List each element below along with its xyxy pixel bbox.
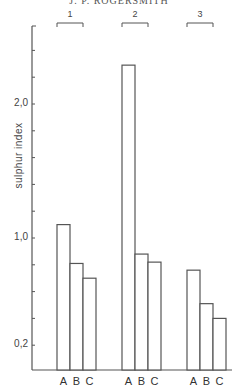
y-tick-label: 0,2 — [2, 338, 28, 349]
bar-1-A — [57, 225, 70, 370]
category-label: B — [135, 375, 148, 387]
bar-2-A — [122, 65, 135, 370]
group-label: 3 — [190, 9, 210, 19]
category-label: B — [200, 375, 213, 387]
bar-2-B — [135, 254, 148, 370]
group-bracket — [122, 23, 148, 27]
bar-2-C — [148, 262, 161, 370]
bar-3-C — [213, 318, 226, 370]
group-label: 1 — [60, 9, 80, 19]
group-bracket — [187, 23, 213, 27]
category-label: A — [57, 375, 70, 387]
category-label: C — [213, 375, 226, 387]
group-bracket — [57, 23, 83, 27]
bar-chart — [0, 0, 238, 392]
y-tick-label: 1,0 — [2, 231, 28, 242]
category-label: C — [83, 375, 96, 387]
bar-3-B — [200, 304, 213, 370]
bar-3-A — [187, 270, 200, 370]
y-tick-label: 2,0 — [2, 97, 28, 108]
category-label: C — [148, 375, 161, 387]
bar-1-B — [70, 263, 83, 370]
y-axis-label: sulphur index — [13, 116, 24, 196]
group-label: 2 — [125, 9, 145, 19]
category-label: B — [70, 375, 83, 387]
category-label: A — [122, 375, 135, 387]
bar-1-C — [83, 278, 96, 370]
category-label: A — [187, 375, 200, 387]
